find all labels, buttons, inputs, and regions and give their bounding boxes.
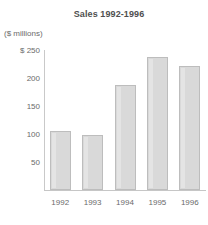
bar-highlight bbox=[84, 137, 88, 188]
sales-bar-chart: Sales 1992-1996 ($ millions) 50100150200… bbox=[0, 0, 208, 225]
bar-highlight bbox=[117, 87, 121, 188]
plot-area bbox=[44, 50, 206, 190]
bar-highlight bbox=[149, 59, 153, 188]
bar-1996 bbox=[179, 66, 200, 190]
bar-highlight bbox=[52, 133, 56, 188]
y-axis-tick-150: 150 bbox=[0, 102, 40, 111]
chart-title: Sales 1992-1996 bbox=[44, 9, 174, 19]
bar-highlight bbox=[181, 68, 185, 188]
y-axis-tick-50: 50 bbox=[0, 158, 40, 167]
bar-1992 bbox=[50, 131, 71, 190]
bar-1993 bbox=[82, 135, 103, 190]
bar-1995 bbox=[147, 57, 168, 190]
y-axis-tick-200: 200 bbox=[0, 74, 40, 83]
y-axis-tick-250: $ 250 bbox=[0, 46, 40, 55]
x-axis-line bbox=[44, 190, 206, 191]
y-axis-tick-labels: 50100150200$ 250 bbox=[0, 0, 40, 225]
x-axis-tick-1996: 1996 bbox=[170, 198, 208, 207]
bar-1994 bbox=[115, 85, 136, 190]
y-axis-tick-100: 100 bbox=[0, 130, 40, 139]
